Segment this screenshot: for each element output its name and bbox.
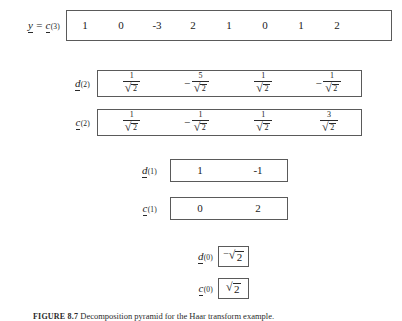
figure-caption-text: Decomposition pyramid for the Haar trans…	[80, 311, 274, 321]
vector-cell: 0	[247, 20, 283, 31]
fraction-denominator: √2	[254, 120, 272, 134]
label-equals: =	[33, 19, 45, 31]
label-var-c: c	[76, 116, 81, 129]
vector-cell: 2	[319, 20, 355, 31]
sqrt-icon: √	[325, 82, 332, 94]
square-root-expression: √ 2	[226, 281, 241, 295]
label-var-d: d	[75, 77, 81, 90]
row-level-0-approximation: c(0) √ 2	[185, 277, 255, 299]
vector-cell: 1 √2	[98, 111, 164, 133]
row-level-1-approximation: c(1) 0 2	[113, 196, 289, 220]
radicand: 2	[235, 251, 244, 263]
vector-cell: − 1 √2	[295, 72, 361, 94]
vector-cell: 1 √2	[98, 72, 164, 94]
fraction-numerator: 1	[196, 111, 204, 120]
sqrt-icon: √	[194, 121, 201, 133]
label-var-c: c	[199, 282, 204, 295]
vector-cell: -1	[229, 165, 287, 176]
fraction-sign: −	[315, 78, 321, 89]
vector-box-level-2-approximation: 1 √2 − 1 √2	[97, 109, 362, 136]
fraction: − 1 √2	[184, 111, 209, 133]
row-level-3-signal: y = c(3) 1 0 -3 2 1 0 1 2	[10, 9, 392, 41]
decomposition-pyramid-figure: y = c(3) 1 0 -3 2 1 0 1 2 d(2) 1	[0, 0, 402, 321]
vector-cell: 1	[67, 20, 103, 31]
sqrt-icon: √	[194, 82, 201, 94]
label-level-0-detail: d(0)	[185, 250, 213, 263]
fraction: 1 √2	[121, 72, 140, 94]
fraction-numerator: 1	[259, 72, 267, 81]
row-level-2-detail: d(2) 1 √2 − 5	[40, 69, 362, 97]
figure-caption: FIGURE 8.7 Decomposition pyramid for the…	[33, 311, 373, 321]
vector-cell: 1	[283, 20, 319, 31]
vector-box-level-1-approximation: 0 2	[170, 197, 288, 220]
vector-box-level-2-detail: 1 √2 − 5 √2	[97, 70, 362, 97]
fraction: 1 √2	[253, 72, 272, 94]
fraction-numerator: 5	[196, 72, 204, 81]
vector-cell: 2	[229, 203, 287, 214]
sqrt-icon: √	[229, 249, 236, 261]
vector-cell: 0	[103, 20, 139, 31]
fraction-denominator: √2	[123, 81, 141, 95]
row-level-0-detail: d(0) − √ 2	[185, 245, 255, 267]
row-level-2-approximation: c(2) 1 √2 − 1	[40, 108, 362, 136]
sqrt-icon: √	[125, 82, 132, 94]
vector-cell: 2	[175, 20, 211, 31]
fraction: 3 √2	[319, 111, 338, 133]
vector-box-level-0-approximation: √ 2	[218, 278, 249, 299]
fraction-sign: −	[184, 117, 190, 128]
vector-cell: 3 √2	[295, 111, 361, 133]
fraction-numerator: 1	[128, 72, 136, 81]
square-root-expression: − √ 2	[223, 249, 244, 263]
radicand: 2	[233, 283, 242, 295]
vector-cell: √ 2	[219, 281, 248, 295]
label-level-2-detail: d(2)	[40, 77, 90, 90]
label-level-0-approximation: c(0)	[185, 282, 213, 295]
sqrt-icon: √	[256, 121, 263, 133]
label-level-1-detail: d(1)	[113, 164, 157, 177]
sqrt-icon: √	[322, 121, 329, 133]
fraction-denominator: √2	[254, 81, 272, 95]
fraction: − 1 √2	[315, 72, 340, 94]
vector-cell: − √ 2	[219, 249, 248, 263]
fraction-denominator: √2	[192, 120, 210, 134]
fraction-denominator: √2	[320, 120, 338, 134]
vector-cell: − 5 √2	[164, 72, 230, 94]
fraction-numerator: 1	[128, 111, 136, 120]
vector-cell: 1	[211, 20, 247, 31]
fraction: 1 √2	[121, 111, 140, 133]
label-var-d: d	[142, 164, 148, 177]
vector-box-level-0-detail: − √ 2	[218, 246, 249, 267]
fraction-numerator: 3	[325, 111, 333, 120]
label-var-c: c	[46, 19, 51, 32]
row-level-1-detail: d(1) 1 -1	[113, 158, 289, 182]
label-level-1-approximation: c(1)	[113, 202, 157, 215]
sqrt-icon: √	[226, 281, 233, 293]
label-var-y: y	[28, 19, 33, 32]
fraction-denominator: √2	[323, 81, 341, 95]
vector-cell: 1 √2	[230, 111, 296, 133]
vector-cell: 1	[171, 165, 229, 176]
label-level-2-approximation: c(2)	[40, 116, 90, 129]
fraction-denominator: √2	[192, 81, 210, 95]
figure-caption-tag: FIGURE 8.7	[33, 312, 78, 321]
fraction: 1 √2	[253, 111, 272, 133]
vector-cell: 0	[171, 203, 229, 214]
fraction-numerator: 1	[328, 72, 336, 81]
vector-cell: 1 √2	[230, 72, 296, 94]
sqrt-icon: √	[256, 82, 263, 94]
vector-cell: -3	[139, 20, 175, 31]
vector-cell: − 1 √2	[164, 111, 230, 133]
fraction: − 5 √2	[184, 72, 209, 94]
vector-box-level-3-signal: 1 0 -3 2 1 0 1 2	[66, 10, 392, 41]
vector-box-level-1-detail: 1 -1	[170, 159, 288, 182]
fraction-numerator: 1	[259, 111, 267, 120]
fraction-sign: −	[184, 78, 190, 89]
label-var-d: d	[198, 250, 204, 263]
label-var-c: c	[143, 202, 148, 215]
sqrt-icon: √	[125, 121, 132, 133]
label-level-3-signal: y = c(3)	[10, 19, 60, 32]
fraction-denominator: √2	[123, 120, 141, 134]
